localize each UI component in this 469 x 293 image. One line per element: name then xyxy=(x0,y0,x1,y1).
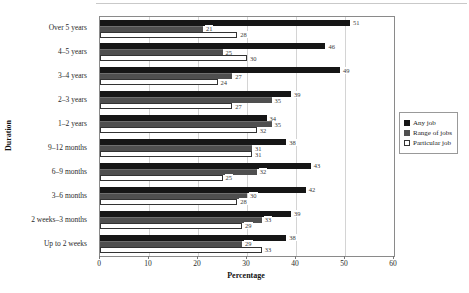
legend-label: Particular job xyxy=(413,139,451,147)
x-axis-title: Percentage xyxy=(99,271,393,280)
legend-item-any-job: Any job xyxy=(404,119,452,127)
range-of-jobs-swatch-icon xyxy=(404,130,410,136)
bar-value-label: 32 xyxy=(259,168,268,175)
bar-particular-job xyxy=(100,55,247,61)
x-axis-ticks: 0102030405060 xyxy=(99,256,393,270)
bar-value-label: 38 xyxy=(288,139,297,146)
category-label: 1–2 years xyxy=(0,112,93,136)
bar-value-label: 43 xyxy=(313,162,322,169)
legend: Any job Range of jobs Particular job xyxy=(399,112,458,154)
bar-value-label: 49 xyxy=(342,67,351,74)
x-tick-label: 50 xyxy=(332,259,356,268)
bar-value-label: 28 xyxy=(239,198,248,205)
category-label: 6–9 months xyxy=(0,159,93,183)
bar-value-label: 25 xyxy=(225,174,234,181)
category-label: 3–6 months xyxy=(0,183,93,207)
figure: Duration Over 5 years4–5 years3–4 years2… xyxy=(0,0,469,293)
category-label: 9–12 months xyxy=(0,136,93,160)
bar-value-label: 27 xyxy=(234,103,243,110)
bar-particular-job xyxy=(100,127,257,133)
legend-label: Any job xyxy=(413,119,436,127)
bar-value-label: 42 xyxy=(308,186,317,193)
category-label: 3–4 years xyxy=(0,64,93,88)
legend-label: Range of jobs xyxy=(413,129,452,137)
bar-value-label: 27 xyxy=(234,73,243,80)
bar-value-label: 51 xyxy=(352,19,361,26)
bar-particular-job xyxy=(100,79,218,85)
plot-area: 5121284625304927243935273435323831314332… xyxy=(99,16,395,257)
bar-particular-job xyxy=(100,175,223,181)
any-job-swatch-icon xyxy=(404,120,410,126)
gridline xyxy=(296,17,297,256)
bar-value-label: 39 xyxy=(293,91,302,98)
bar-value-label: 31 xyxy=(254,151,263,158)
x-tick-label: 30 xyxy=(234,259,258,268)
category-labels: Over 5 years4–5 years3–4 years2–3 years1… xyxy=(0,16,93,255)
x-tick-label: 10 xyxy=(136,259,160,268)
top-rule xyxy=(96,3,467,4)
bar-value-label: 46 xyxy=(327,43,336,50)
category-label: 2 weeks–3 months xyxy=(0,207,93,231)
x-tick-label: 20 xyxy=(185,259,209,268)
bar-value-label: 33 xyxy=(264,246,273,253)
category-label: 4–5 years xyxy=(0,40,93,64)
x-tick-label: 0 xyxy=(87,259,111,268)
bar-value-label: 24 xyxy=(220,79,229,86)
category-label: Over 5 years xyxy=(0,16,93,40)
bar-value-label: 30 xyxy=(249,55,258,62)
category-label: Up to 2 weeks xyxy=(0,231,93,255)
bar-particular-job xyxy=(100,199,237,205)
bar-value-label: 30 xyxy=(249,192,258,199)
bar-value-label: 29 xyxy=(244,222,253,229)
category-label: 2–3 years xyxy=(0,88,93,112)
bar-value-label: 32 xyxy=(259,127,268,134)
gridline xyxy=(345,17,346,256)
legend-item-particular-job: Particular job xyxy=(404,139,452,147)
bar-value-label: 38 xyxy=(288,234,297,241)
bar-value-label: 39 xyxy=(293,210,302,217)
bar-particular-job xyxy=(100,247,262,253)
x-tick-label: 60 xyxy=(381,259,405,268)
bar-value-label: 33 xyxy=(264,216,273,223)
particular-job-swatch-icon xyxy=(404,140,410,146)
bar-value-label: 35 xyxy=(274,97,283,104)
x-tick-label: 40 xyxy=(283,259,307,268)
bar-particular-job xyxy=(100,103,232,109)
bar-particular-job xyxy=(100,223,242,229)
bar-particular-job xyxy=(100,151,252,157)
legend-item-range-of-jobs: Range of jobs xyxy=(404,129,452,137)
bar-value-label: 35 xyxy=(274,121,283,128)
bar-particular-job xyxy=(100,32,237,38)
bar-value-label: 28 xyxy=(239,31,248,38)
